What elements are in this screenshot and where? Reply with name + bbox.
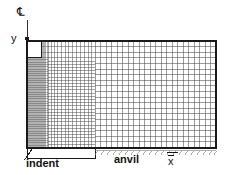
- centerline-and-y-axis: [24, 20, 30, 44]
- indent-label: indent: [26, 158, 59, 169]
- indenter-notch-outline: [27, 41, 41, 57]
- transition-mesh-group: [48, 41, 95, 148]
- coarse-mesh-group: [95, 41, 216, 148]
- model-outer-boundary: [27, 41, 216, 148]
- transition-mesh-horizontal-lines: [48, 41, 95, 148]
- mesh-drawing: [0, 0, 229, 175]
- fem-mesh-figure: ℄ y indent anvil x: [0, 0, 229, 175]
- x-axis-label: x: [168, 155, 174, 168]
- centerline-symbol-label: ℄: [17, 6, 25, 18]
- transition-mesh-vertical-lines: [48, 41, 92, 148]
- x-axis-label-wrapper: x: [168, 155, 174, 168]
- y-axis-label: y: [11, 33, 17, 44]
- anvil-label: anvil: [114, 154, 139, 165]
- anvil-surface-line: [95, 151, 217, 155]
- coarse-mesh-vertical-lines: [95, 41, 216, 148]
